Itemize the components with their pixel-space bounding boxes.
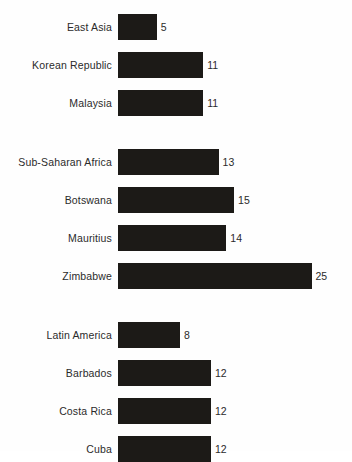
bar-fill: [118, 14, 157, 40]
bar-value-label: 12: [211, 360, 227, 386]
bar-category-label: Latin America: [0, 322, 112, 348]
bar-value-label: 8: [180, 322, 190, 348]
bar-value-label: 11: [203, 90, 218, 116]
bar-category-label: East Asia: [0, 14, 112, 40]
bar-category-label: Botswana: [0, 187, 112, 213]
bar-value-label: 5: [157, 14, 167, 40]
bar-track: 12: [118, 398, 352, 424]
bar-fill: [118, 263, 312, 289]
bar-row[interactable]: Botswana 15: [0, 187, 352, 213]
bar-value-label: 13: [219, 149, 235, 175]
bar-row[interactable]: Barbados 12: [0, 360, 352, 386]
chart-group-east-asia: East Asia 5 Korean Republic 11 Malaysia …: [0, 14, 352, 116]
bar-category-label: Mauritius: [0, 225, 112, 251]
bar-category-label: Zimbabwe: [0, 263, 112, 289]
bar-fill: [118, 436, 211, 462]
bar-category-label: Barbados: [0, 360, 112, 386]
bar-track: 15: [118, 187, 352, 213]
bar-row[interactable]: Zimbabwe 25: [0, 263, 352, 289]
bar-track: 11: [118, 52, 352, 78]
chart-group-sub-saharan-africa: Sub-Saharan Africa 13 Botswana 15 Maurit…: [0, 149, 352, 289]
bar-track: 13: [118, 149, 352, 175]
bar-track: 11: [118, 90, 352, 116]
bar-value-label: 15: [234, 187, 250, 213]
bar-value-label: 11: [203, 52, 218, 78]
bar-track: 14: [118, 225, 352, 251]
bar-fill: [118, 187, 234, 213]
bar-row[interactable]: Mauritius 14: [0, 225, 352, 251]
bar-value-label: 25: [312, 263, 328, 289]
bar-category-label: Cuba: [0, 436, 112, 462]
bar-row[interactable]: Cuba 12: [0, 436, 352, 462]
bar-track: 12: [118, 436, 352, 462]
bar-value-label: 12: [211, 436, 227, 462]
bar-track: 8: [118, 322, 352, 348]
bar-category-label: Malaysia: [0, 90, 112, 116]
top-spacer: [0, 0, 352, 14]
bar-fill: [118, 225, 226, 251]
bar-row[interactable]: Korean Republic 11: [0, 52, 352, 78]
chart-group-latin-america: Latin America 8 Barbados 12 Costa Rica 1…: [0, 322, 352, 462]
bar-fill: [118, 398, 211, 424]
group-separator: [0, 128, 352, 149]
bar-row[interactable]: Malaysia 11: [0, 90, 352, 116]
bar-track: 25: [118, 263, 352, 289]
group-separator: [0, 301, 352, 322]
bar-fill: [118, 90, 203, 116]
bar-category-label: Korean Republic: [0, 52, 112, 78]
bar-fill: [118, 322, 180, 348]
bar-row[interactable]: Costa Rica 12: [0, 398, 352, 424]
bar-fill: [118, 360, 211, 386]
bar-value-label: 12: [211, 398, 227, 424]
bar-value-label: 14: [226, 225, 242, 251]
bar-fill: [118, 52, 203, 78]
bar-fill: [118, 149, 219, 175]
bar-row[interactable]: Sub-Saharan Africa 13: [0, 149, 352, 175]
bar-track: 12: [118, 360, 352, 386]
bar-category-label: Costa Rica: [0, 398, 112, 424]
bar-category-label: Sub-Saharan Africa: [0, 149, 112, 175]
bar-row[interactable]: Latin America 8: [0, 322, 352, 348]
bar-row[interactable]: East Asia 5: [0, 14, 352, 40]
bar-track: 5: [118, 14, 352, 40]
